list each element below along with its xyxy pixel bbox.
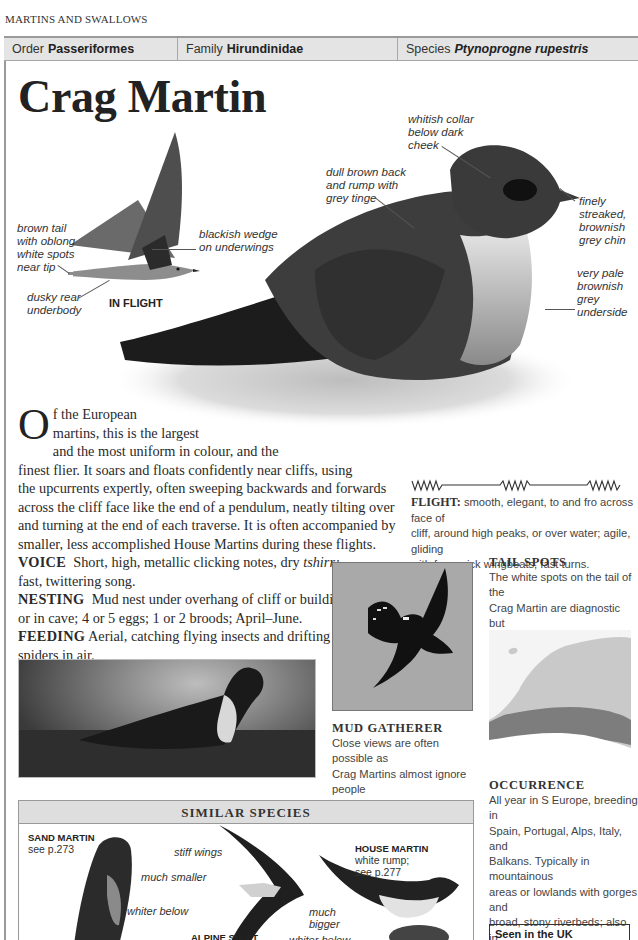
taxon-species: Species Ptynoprogne rupestris: [398, 38, 638, 60]
label-whiter-below-sand: whiter below: [127, 905, 188, 918]
label-pale-underside: very pale brownish grey underside: [577, 267, 628, 319]
flying-martin-image: [333, 563, 473, 711]
page-frame-rule: [4, 36, 6, 940]
distribution-map: [489, 630, 631, 770]
page-title: Crag Martin: [18, 70, 266, 123]
label-whiter-below-house: whiter below: [289, 934, 350, 940]
alpine-swift-name: ALPINE SWIFT: [191, 932, 258, 940]
sand-martin-ref[interactable]: see p.273: [28, 843, 74, 855]
label-finely-streaked-chin: finely streaked, brownish grey chin: [579, 195, 626, 247]
species-label: Species: [406, 42, 450, 56]
order-label: Order: [12, 42, 44, 56]
europe-range-map: [489, 630, 631, 770]
label-much-smaller: much smaller: [141, 871, 206, 884]
taxonomy-bar: Order Passeriformes Family Hirundinidae …: [4, 36, 638, 61]
occurrence-title: OCCURRENCE: [489, 778, 585, 793]
house-martin-name: HOUSE MARTIN: [355, 843, 428, 854]
mud-gatherer-photo: [332, 562, 473, 711]
seen-in-uk-box: Seen in the UK: [489, 924, 630, 940]
taxon-order: Order Passeriformes: [4, 38, 178, 60]
species-value: Ptynoprogne rupestris: [454, 42, 588, 56]
family-label: Family: [186, 42, 223, 56]
taxon-family: Family Hirundinidae: [178, 38, 398, 60]
label-stiff-wings: stiff wings: [174, 846, 222, 859]
sand-martin-name: SAND MARTIN: [28, 832, 95, 843]
drop-cap: O: [18, 407, 50, 443]
leader-line: [545, 309, 575, 310]
similar-species-panel: SIMILAR SPECIES SAND MARTIN see p.273 mu…: [18, 800, 474, 940]
perched-martin-image: [19, 660, 316, 778]
label-dull-brown-back: dull brown back and rump with grey tinge: [326, 166, 406, 205]
similar-species-title: SIMILAR SPECIES: [19, 801, 473, 824]
flight-pattern-icon: [410, 478, 638, 492]
order-value: Passeriformes: [48, 42, 134, 56]
house-martin-ref[interactable]: white rump; see p.277: [355, 854, 409, 878]
family-value: Hirundinidae: [227, 42, 303, 56]
ground-martin-photo: [18, 659, 316, 778]
label-dusky-rear: dusky rear underbody: [27, 291, 81, 317]
label-bigger: bigger: [309, 918, 340, 931]
running-head: MARTINS AND SWALLOWS: [5, 13, 148, 25]
mud-gatherer-title: MUD GATHERER: [332, 721, 443, 736]
tail-spots-title: TAIL SPOTS: [489, 555, 567, 570]
label-brown-tail: brown tail with oblong white spots near …: [17, 222, 75, 274]
occurrence-text: All year in S Europe, breeding in Spain,…: [489, 793, 638, 940]
